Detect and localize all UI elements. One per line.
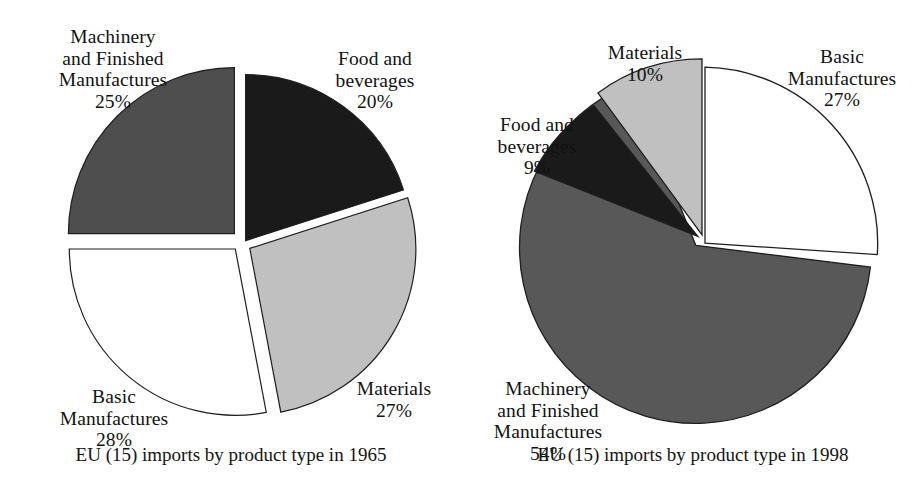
caption-1965: EU (15) imports by product type in 1965 — [0, 444, 462, 466]
label-food-pct-1965: 20% — [300, 91, 450, 113]
label-basic-text-1998: Basic Manufactures — [788, 46, 896, 89]
label-materials-1965: Materials 27% — [330, 356, 458, 443]
label-basic-text-1965: Basic Manufactures — [60, 386, 168, 429]
label-food-1998: Food and beverages 9% — [464, 92, 610, 201]
label-machinery-1965: Machinery and Finished Manufactures 25% — [6, 4, 220, 135]
label-food-text-1998: Food and beverages — [498, 114, 577, 157]
label-machinery-text-1998: Machinery and Finished Manufactures — [494, 378, 602, 443]
label-materials-pct-1965: 27% — [330, 400, 458, 422]
label-machinery-pct-1965: 25% — [6, 91, 220, 113]
chart-panel-1965: Machinery and Finished Manufactures 25% … — [0, 0, 462, 487]
label-materials-text-1965: Materials — [357, 378, 432, 399]
label-materials-text-1998: Materials — [608, 42, 683, 63]
label-machinery-1998: Machinery and Finished Manufactures 54% — [462, 356, 634, 487]
label-food-text-1965: Food and beverages — [336, 48, 415, 91]
label-basic-pct-1998: 27% — [760, 89, 924, 111]
chart-panel-1998: Materials 10% Basic Manufactures 27% Foo… — [462, 0, 924, 487]
label-food-1965: Food and beverages 20% — [300, 26, 450, 135]
caption-1998: EU (15) imports by product type in 1998 — [462, 444, 924, 466]
label-basic-manufactures-1998: Basic Manufactures 27% — [760, 24, 924, 133]
pie-chart-figure: Machinery and Finished Manufactures 25% … — [0, 0, 924, 487]
label-food-pct-1998: 9% — [464, 157, 610, 179]
label-materials-pct-1998: 10% — [580, 64, 710, 86]
label-machinery-text-1965: Machinery and Finished Manufactures — [59, 26, 167, 91]
